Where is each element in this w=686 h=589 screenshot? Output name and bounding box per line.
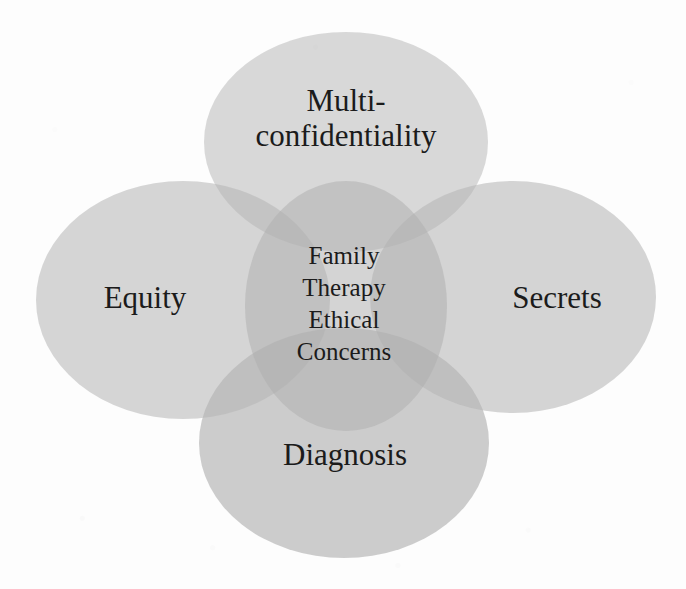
petal-label-secrets: Secrets: [462, 281, 652, 316]
petal-label-multi-confidentiality: Multi- confidentiality: [213, 84, 479, 153]
center-label-family-therapy-ethical-concerns: Family Therapy Ethical Concerns: [268, 240, 420, 368]
petal-label-equity: Equity: [50, 281, 240, 316]
diagram-canvas: Multi- confidentiality Equity Secrets Di…: [0, 0, 686, 589]
petal-label-diagnosis: Diagnosis: [225, 438, 465, 473]
